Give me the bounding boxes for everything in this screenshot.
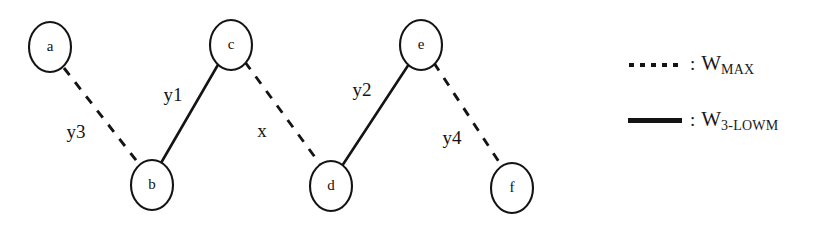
edge-label-b-c: y1	[164, 84, 183, 105]
edge-label-d-e: y2	[353, 79, 372, 100]
edge-c-d	[245, 62, 320, 164]
graph-diagram: y3 y1 x y2 y4 a b c d	[0, 0, 813, 233]
node-a[interactable]: a	[29, 22, 71, 72]
legend-subscript-w-3-lowm: 3-LOWM	[721, 118, 778, 133]
node-a-label: a	[47, 38, 54, 54]
node-d-label: d	[327, 177, 335, 193]
legend-symbol-w-3-lowm: W	[701, 107, 721, 131]
edge-e-f	[434, 63, 501, 165]
node-f-label: f	[510, 179, 515, 195]
node-e[interactable]: e	[400, 20, 442, 70]
legend-label-w-3-lowm: W3-LOWM	[701, 109, 778, 133]
node-b-label: b	[148, 176, 156, 192]
node-e-label: e	[418, 36, 425, 52]
edge-a-b	[64, 68, 139, 164]
node-b[interactable]: b	[131, 160, 173, 210]
node-d[interactable]: d	[310, 161, 352, 211]
node-c[interactable]: c	[210, 20, 252, 70]
legend-separator-w-max: :	[682, 54, 701, 73]
edge-group	[64, 62, 501, 166]
legend: : WMAX : W3-LOWM	[628, 48, 808, 160]
legend-label-w-max: WMAX	[701, 53, 754, 77]
legend-symbol-w-max: W	[701, 51, 721, 75]
legend-subscript-w-max: MAX	[721, 62, 754, 77]
solid-line-icon	[628, 114, 682, 128]
node-group: a b c d e f	[29, 20, 533, 213]
edge-label-group: y3 y1 x y2 y4	[67, 79, 463, 148]
node-f[interactable]: f	[491, 163, 533, 213]
legend-entry-w-3-lowm: : W3-LOWM	[628, 104, 808, 138]
node-c-label: c	[228, 36, 235, 52]
legend-entry-w-max: : WMAX	[628, 48, 808, 82]
edge-label-a-b: y3	[67, 121, 86, 142]
edge-label-c-d: x	[257, 120, 267, 141]
edge-b-c	[161, 63, 219, 163]
edge-label-e-f: y4	[443, 127, 463, 148]
legend-separator-w-3-lowm: :	[682, 110, 701, 129]
dotted-line-icon	[628, 58, 682, 72]
